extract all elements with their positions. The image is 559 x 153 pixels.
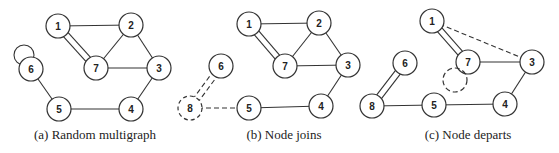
departed-node-c bbox=[443, 68, 467, 92]
node-label: 1 bbox=[246, 19, 252, 30]
node-b-5: 5 bbox=[237, 96, 261, 120]
node-a-3: 3 bbox=[147, 56, 171, 80]
caption-panel-a: (a) Random multigraph bbox=[34, 127, 157, 142]
node-label: 7 bbox=[282, 61, 288, 72]
node-label: 7 bbox=[465, 57, 471, 68]
node-a-1: 1 bbox=[46, 14, 70, 38]
node-label: 5 bbox=[431, 100, 437, 111]
node-label: 6 bbox=[218, 61, 224, 72]
multigraph-figure: 1267354126738541673854 (a) Random multig… bbox=[0, 0, 559, 153]
node-c-7: 7 bbox=[456, 50, 480, 74]
node-label: 4 bbox=[502, 99, 508, 110]
node-c-3: 3 bbox=[520, 50, 544, 74]
node-label: 1 bbox=[55, 21, 61, 32]
node-a-6: 6 bbox=[19, 57, 43, 81]
node-a-4: 4 bbox=[119, 97, 143, 121]
node-b-6: 6 bbox=[209, 54, 233, 78]
node-b-7: 7 bbox=[273, 54, 297, 78]
node-b-4: 4 bbox=[309, 94, 333, 118]
node-b-8: 8 bbox=[178, 96, 202, 120]
node-label: 5 bbox=[246, 103, 252, 114]
node-a-5: 5 bbox=[47, 97, 71, 121]
node-label: 7 bbox=[93, 63, 99, 74]
node-label: 6 bbox=[402, 58, 408, 69]
node-label: 4 bbox=[318, 101, 324, 112]
caption-panel-c: (c) Node departs bbox=[425, 127, 512, 142]
node-b-1: 1 bbox=[237, 12, 261, 36]
node-c-1: 1 bbox=[420, 9, 444, 33]
node-label: 3 bbox=[345, 60, 351, 71]
node-label: 6 bbox=[28, 64, 34, 75]
node-a-2: 2 bbox=[119, 13, 143, 37]
node-c-6: 6 bbox=[393, 51, 417, 75]
caption-panel-b: (b) Node joins bbox=[246, 127, 321, 142]
node-label: 3 bbox=[529, 57, 535, 68]
node-b-3: 3 bbox=[336, 53, 360, 77]
figure-canvas: 1267354126738541673854 (a) Random multig… bbox=[0, 0, 559, 153]
node-label: 8 bbox=[187, 103, 193, 114]
node-a-7: 7 bbox=[84, 56, 108, 80]
node-label: 1 bbox=[429, 16, 435, 27]
node-label: 2 bbox=[316, 18, 322, 29]
node-label: 2 bbox=[128, 20, 134, 31]
node-label: 4 bbox=[128, 104, 134, 115]
node-c-8: 8 bbox=[360, 94, 384, 118]
node-label: 3 bbox=[156, 63, 162, 74]
node-label: 5 bbox=[56, 104, 62, 115]
edge-c-1-3 bbox=[432, 21, 532, 62]
node-b-2: 2 bbox=[307, 11, 331, 35]
node-c-4: 4 bbox=[493, 92, 517, 116]
captions-layer: (a) Random multigraph (b) Node joins (c)… bbox=[34, 127, 511, 142]
node-c-5: 5 bbox=[422, 93, 446, 117]
node-label: 8 bbox=[369, 101, 375, 112]
